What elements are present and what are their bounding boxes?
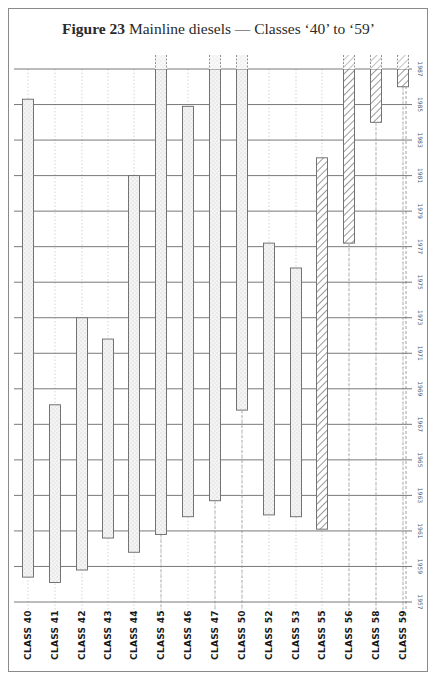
y-tick-label: 1965 [417, 452, 424, 467]
y-tick-label: 1961 [417, 523, 424, 538]
x-axis-labels: CLASS 40CLASS 41CLASS 42CLASS 43CLASS 44… [23, 610, 408, 660]
y-axis-labels: 1957195919611963196519671969197119731975… [417, 61, 424, 609]
x-category-label: CLASS 59 [398, 610, 408, 660]
y-tick-label: 1973 [417, 310, 424, 325]
y-tick-label: 1967 [417, 417, 424, 432]
y-tick-label: 1983 [417, 132, 424, 147]
bar-class-52 [263, 243, 275, 515]
x-category-label: CLASS 47 [210, 610, 220, 660]
y-tick-label: 1971 [417, 346, 424, 361]
x-category-label: CLASS 40 [23, 610, 33, 660]
x-category-label: CLASS 42 [77, 610, 87, 660]
x-category-label: CLASS 43 [103, 610, 113, 660]
bar-class-40 [22, 99, 34, 577]
y-tick-label: 1987 [417, 61, 424, 76]
x-category-label: CLASS 53 [291, 610, 301, 660]
continuation-marker [397, 55, 409, 610]
bar-class-58 [370, 55, 382, 610]
x-category-label: CLASS 41 [50, 610, 60, 660]
y-tick-label: 1963 [417, 488, 424, 503]
bar-class-59 [397, 55, 409, 610]
y-tick-label: 1969 [417, 381, 424, 396]
y-tick-label: 1957 [417, 594, 424, 609]
x-category-label: CLASS 56 [344, 610, 354, 660]
bar-class-53 [290, 268, 302, 517]
x-category-label: CLASS 52 [264, 610, 274, 660]
y-tick-label: 1977 [417, 239, 424, 254]
continuation-marker [370, 55, 382, 610]
bar-class-43 [102, 339, 114, 538]
y-tick-label: 1985 [417, 97, 424, 112]
y-tick-label: 1959 [417, 559, 424, 574]
bar-class-46 [182, 106, 194, 516]
bar-class-45 [155, 55, 167, 610]
x-category-label: CLASS 50 [237, 610, 247, 660]
chart-plot: 1957195919611963196519671969197119731975… [0, 0, 437, 677]
x-category-label: CLASS 45 [156, 610, 166, 660]
y-tick-label: 1979 [417, 203, 424, 218]
x-category-label: CLASS 55 [317, 610, 327, 660]
bar-class-50 [236, 55, 248, 610]
y-tick-label: 1981 [417, 168, 424, 183]
x-category-label: CLASS 58 [371, 610, 381, 660]
bar-class-42 [76, 318, 88, 570]
x-category-label: CLASS 46 [183, 610, 193, 660]
bar-class-41 [49, 405, 61, 583]
y-tick-label: 1975 [417, 275, 424, 290]
bar-class-47 [209, 55, 221, 610]
bar-class-55 [316, 158, 328, 529]
bars [22, 55, 409, 610]
x-category-label: CLASS 44 [129, 610, 139, 660]
bar-class-44 [128, 176, 140, 553]
